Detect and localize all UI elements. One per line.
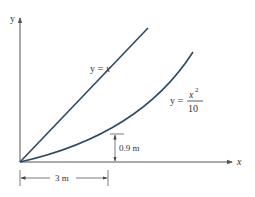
line-curve-label: y = x <box>90 63 111 74</box>
width-dimension-label: 3 m <box>55 173 69 183</box>
svg-text:x: x <box>188 89 194 100</box>
svg-text:10: 10 <box>188 103 198 114</box>
diagram-canvas: y x y = x y = x 2 10 0.9 m 3 m <box>0 0 255 197</box>
x-axis-label: x <box>236 156 242 167</box>
height-dimension-label: 0.9 m <box>119 143 140 153</box>
width-dimension: 3 m <box>20 170 108 186</box>
y-axis-label: y <box>10 13 15 24</box>
parabola-curve-label: y = x 2 10 <box>170 86 203 114</box>
svg-text:2: 2 <box>195 86 199 94</box>
height-dimension: 0.9 m <box>110 134 140 161</box>
svg-text:y =: y = <box>170 95 184 106</box>
